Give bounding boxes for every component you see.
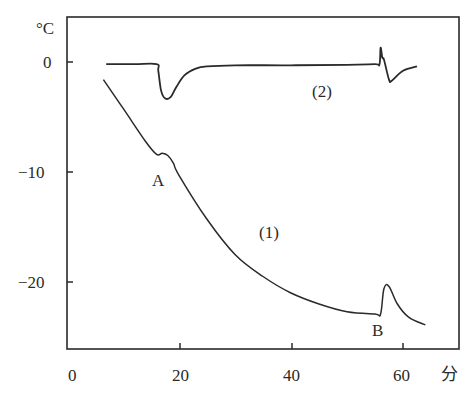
series-2-line bbox=[106, 48, 417, 99]
y-axis-unit-label: °C bbox=[36, 20, 54, 37]
x-tick-label-60: 60 bbox=[393, 367, 410, 384]
x-tick-label-40: 40 bbox=[283, 367, 300, 384]
y-tick-label-minus10: −10 bbox=[18, 164, 45, 181]
annotation-b: B bbox=[372, 322, 383, 339]
series-1-line bbox=[103, 80, 425, 325]
x-axis-unit-label: 分 bbox=[441, 366, 458, 383]
x-ticks bbox=[180, 343, 403, 349]
y-ticks bbox=[67, 62, 73, 282]
chart-canvas bbox=[0, 0, 474, 400]
x-tick-label-0: 0 bbox=[68, 367, 77, 384]
series-1-label: (1) bbox=[259, 224, 279, 241]
y-tick-20-value: 20 bbox=[28, 273, 45, 292]
plot-frame bbox=[67, 17, 459, 349]
y-tick-label-0: 0 bbox=[43, 54, 52, 71]
series-2-label: (2) bbox=[312, 83, 332, 100]
y-tick-10-value: 10 bbox=[28, 163, 45, 182]
y-tick-label-minus20: −20 bbox=[18, 274, 45, 291]
x-tick-label-20: 20 bbox=[172, 367, 189, 384]
annotation-a: A bbox=[152, 172, 164, 189]
